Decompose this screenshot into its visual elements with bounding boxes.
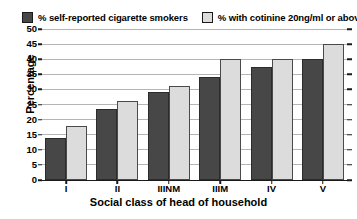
legend-entry-self-reported: % self-reported cigarette smokers <box>22 12 188 23</box>
x-axis-tick-label: II <box>115 184 120 194</box>
bar-group <box>96 29 138 180</box>
y-axis-right-tick-mark <box>347 134 352 136</box>
legend-swatch-icon-series-2 <box>202 12 213 23</box>
x-axis-tick-label: IIINM <box>157 184 180 194</box>
bar <box>117 101 138 180</box>
y-axis-right-tick-mark <box>347 149 352 151</box>
x-axis-title: Social class of head of household <box>0 196 357 208</box>
chart-container: % self-reported cigarette smokers % with… <box>0 0 357 219</box>
bar <box>199 77 220 180</box>
y-axis-tick-label: 20 <box>26 115 37 125</box>
bar-group <box>251 29 293 180</box>
y-axis-tick-label: 45 <box>26 39 37 49</box>
y-axis-right-tick-mark <box>347 164 352 166</box>
bar <box>148 92 169 180</box>
chart-legend: % self-reported cigarette smokers % with… <box>22 8 352 26</box>
bar-group <box>148 29 190 180</box>
y-axis-right-tick-mark <box>347 74 352 76</box>
x-axis-tick-label: IIIM <box>212 184 228 194</box>
legend-label-series-2: % with cotinine 20ng/ml or above <box>218 12 357 23</box>
y-axis-tick-label: 0 <box>32 175 37 185</box>
y-axis-tick-label: 10 <box>26 145 37 155</box>
legend-label-series-1: % self-reported cigarette smokers <box>38 12 188 23</box>
bar <box>323 44 344 180</box>
x-axis-tick-label: IV <box>267 184 276 194</box>
y-axis-right-tick-mark <box>347 179 352 181</box>
y-axis-tick-label: 15 <box>26 130 37 140</box>
legend-entry-cotinine: % with cotinine 20ng/ml or above <box>202 12 357 23</box>
y-axis-right-tick-mark <box>347 28 352 30</box>
bar <box>169 86 190 180</box>
x-axis-tick-label: V <box>320 184 326 194</box>
bar-group <box>45 29 87 180</box>
bar-group <box>302 29 344 180</box>
bar <box>45 138 66 180</box>
y-axis-tick-label: 25 <box>26 100 37 110</box>
y-axis-right-tick-mark <box>347 119 352 121</box>
bar-group <box>199 29 241 180</box>
y-axis-tick-label: 5 <box>32 160 37 170</box>
legend-swatch-icon-series-1 <box>22 12 33 23</box>
y-axis-tick-label: 30 <box>26 85 37 95</box>
y-axis-tick-label: 40 <box>26 54 37 64</box>
bar <box>220 59 241 180</box>
y-axis-tick-label: 50 <box>26 24 37 34</box>
bar <box>302 59 323 180</box>
y-axis-right-tick-mark <box>347 104 352 106</box>
bar <box>272 59 293 180</box>
bar <box>66 126 87 180</box>
x-axis-tick-label: I <box>65 184 68 194</box>
y-axis-right-tick-mark <box>347 89 352 91</box>
bar <box>251 67 272 180</box>
plot-area: 05101520253035404550 <box>42 29 347 180</box>
y-axis-right-tick-mark <box>347 58 352 60</box>
x-axis-ticks: IIIIIINMIIIMIVV <box>42 180 347 196</box>
bar <box>96 109 117 180</box>
y-axis-tick-label: 35 <box>26 70 37 80</box>
y-axis-right-tick-mark <box>347 43 352 45</box>
bars-layer <box>42 29 347 180</box>
